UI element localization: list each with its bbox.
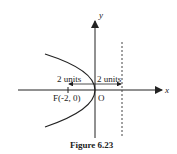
origin-label: O [98, 93, 105, 103]
y-axis-label: y [98, 10, 103, 20]
parabola-diagram: y x 2 units 2 units F(-2, 0) O Figure 6.… [0, 0, 177, 154]
focus-label: F(-2, 0) [53, 93, 81, 103]
right-distance-label: 2 units [97, 74, 122, 84]
left-distance-label: 2 units [57, 74, 82, 84]
figure-caption: Figure 6.23 [70, 140, 114, 150]
x-axis-label: x [164, 85, 169, 95]
